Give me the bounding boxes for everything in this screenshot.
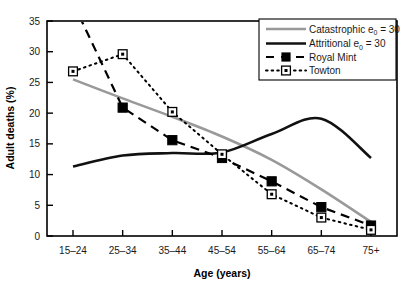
y-tick-label: 35 bbox=[29, 16, 41, 27]
y-tick-label: 30 bbox=[29, 46, 41, 57]
x-tick-label: 65–74 bbox=[307, 245, 335, 256]
x-tick-label: 35–44 bbox=[158, 245, 186, 256]
data-point-marker-center bbox=[171, 110, 174, 113]
legend-marker-center bbox=[285, 69, 288, 72]
x-axis-title: Age (years) bbox=[193, 267, 250, 279]
x-tick-label: 45–54 bbox=[208, 245, 236, 256]
x-tick-label: 55–64 bbox=[258, 245, 286, 256]
data-point-marker-center bbox=[121, 53, 124, 56]
chart-svg: 05101520253035 15–2425–3435–4445–5455–64… bbox=[0, 0, 412, 286]
legend-marker-swatch bbox=[281, 52, 290, 61]
legend-entry-label: Towton bbox=[309, 65, 341, 76]
y-tick-label: 25 bbox=[29, 77, 41, 88]
legend-entry-label: Royal Mint bbox=[309, 52, 356, 63]
data-point-marker-center bbox=[221, 153, 224, 156]
data-point-marker-center bbox=[370, 228, 373, 231]
x-tick-label: 75+ bbox=[363, 245, 380, 256]
data-point-marker bbox=[118, 103, 127, 112]
y-tick-label: 20 bbox=[29, 108, 41, 119]
legend-entry-label: Catastrophic e0 = 30 bbox=[309, 24, 400, 37]
x-tick-label: 25–34 bbox=[109, 245, 137, 256]
data-point-marker bbox=[168, 136, 177, 145]
data-point-marker-center bbox=[320, 216, 323, 219]
chart-container: 05101520253035 15–2425–3435–4445–5455–64… bbox=[0, 0, 412, 286]
y-tick-label: 15 bbox=[29, 138, 41, 149]
data-point-marker-center bbox=[72, 70, 75, 73]
data-point-marker bbox=[267, 177, 276, 186]
legend-entry-label: Attritional e0 = 30 bbox=[309, 38, 386, 51]
data-point-marker-center bbox=[270, 193, 273, 196]
chart-legend: Catastrophic e0 = 30Attritional e0 = 30R… bbox=[259, 19, 400, 80]
y-tick-label: 0 bbox=[34, 231, 40, 242]
data-point-marker bbox=[317, 203, 326, 212]
x-tick-label: 15–24 bbox=[59, 245, 87, 256]
y-axis-title: Adult deaths (%) bbox=[4, 87, 16, 170]
y-tick-label: 10 bbox=[29, 169, 41, 180]
y-tick-label: 5 bbox=[34, 200, 40, 211]
